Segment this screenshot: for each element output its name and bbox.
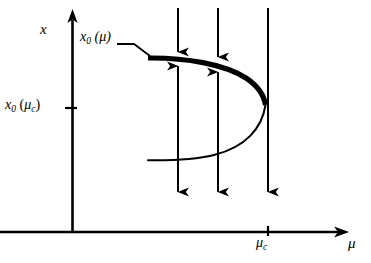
callout-label-sub: 0 [86, 36, 91, 46]
bifurcation-curve-group [148, 58, 266, 160]
y-axis-tick-label: x0 (μc) [5, 98, 40, 115]
bifurcation-diagram-figure: x μ x0 (μc) μc x0 (μ) [0, 0, 371, 263]
curve-callout-label: x0 (μ) [80, 30, 111, 47]
stable-branch [148, 58, 266, 105]
x-axis-label: μ [348, 236, 356, 251]
y-tick-label-close: ) [35, 97, 40, 112]
y-tick-label-var-sub: 0 [11, 104, 16, 114]
callout-label-arg: (μ) [94, 29, 110, 44]
x-axis-tick-label: μc [256, 236, 267, 253]
flow-field-group [178, 8, 268, 192]
tick-marks [65, 108, 268, 236]
callout-leader-line [117, 44, 150, 56]
unstable-branch [148, 105, 266, 160]
diagram-canvas [0, 0, 371, 263]
x-tick-label-sub: c [263, 242, 267, 252]
y-axis-label: x [40, 22, 47, 37]
callout-leader-group [117, 44, 150, 56]
x-tick-label-var: μ [256, 235, 263, 250]
